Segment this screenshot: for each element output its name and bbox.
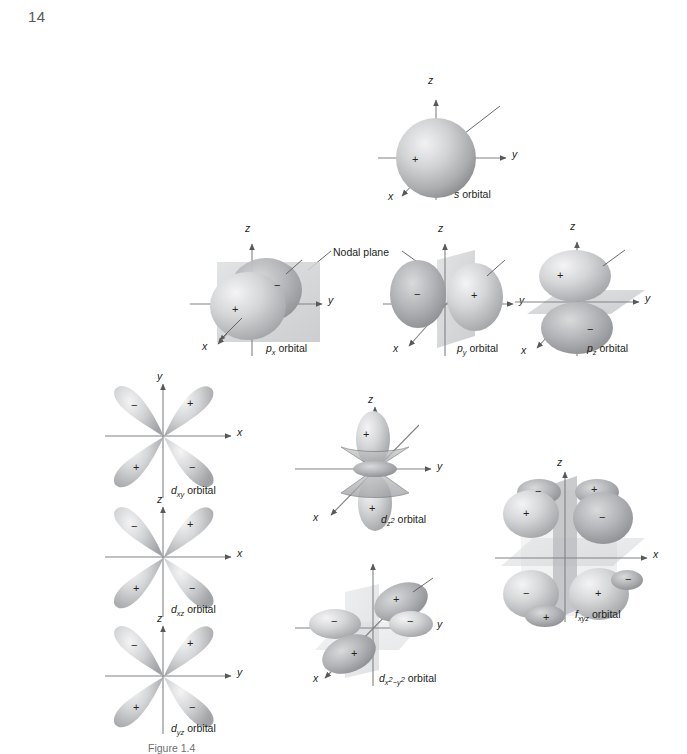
dxz-lobes bbox=[113, 502, 214, 613]
axis-label-x: x bbox=[237, 426, 242, 438]
phase-sign-plus-ll: + bbox=[133, 583, 139, 594]
phase-sign-minus: − bbox=[414, 289, 420, 300]
axis-label-y: y bbox=[237, 666, 242, 678]
dyz-lobes bbox=[113, 621, 214, 732]
phase-sign-plus-back: + bbox=[393, 594, 399, 605]
axis-label-x: x bbox=[393, 342, 398, 354]
orbital-caption-dxy: dxy orbital bbox=[171, 484, 216, 499]
orbital-superscript: 2 bbox=[391, 516, 395, 525]
orbital-panel-dxy: y x − + + − dxy orbital bbox=[105, 378, 275, 508]
s-orbital-sphere bbox=[396, 118, 476, 198]
orbital-subscript: z bbox=[593, 348, 597, 357]
phase-sign-minus-ul: − bbox=[131, 521, 137, 532]
axis-label-z: z bbox=[557, 456, 562, 468]
phase-sign-plus-ll: + bbox=[133, 702, 139, 713]
orbital-caption-py: py orbital bbox=[457, 342, 498, 357]
orbital-subscript: xz bbox=[177, 609, 184, 618]
phase-sign-plus-ur: + bbox=[187, 638, 193, 649]
axis-label-z: z bbox=[438, 222, 443, 234]
orbital-panel-dz2: z y x + + dz2 orbital bbox=[295, 403, 480, 531]
dxy-lobes bbox=[113, 381, 214, 492]
orbital-panel-pz: z y x + − pz orbital bbox=[515, 232, 685, 364]
phase-sign-minus-back-ul: − bbox=[535, 486, 541, 497]
orbital-symbol: d bbox=[379, 672, 385, 684]
phase-sign-plus-back-ur: + bbox=[591, 484, 597, 495]
axis-label-z: z bbox=[570, 220, 575, 232]
axis-label-x: x bbox=[313, 672, 318, 684]
axis-label-x: x bbox=[388, 190, 393, 202]
phase-sign-minus-ul: − bbox=[131, 640, 137, 651]
orbital-caption-s: s orbital bbox=[454, 188, 491, 200]
axis-label-x: x bbox=[653, 548, 658, 560]
dxy-lobe-minus-ul bbox=[113, 381, 164, 442]
orbital-subscript: xyz bbox=[578, 614, 589, 623]
orbital-subscript: xy bbox=[177, 490, 184, 499]
axis-label-y: y bbox=[157, 370, 162, 382]
dxy-lobe-plus-ur bbox=[164, 381, 215, 442]
pz-lobe-plus bbox=[539, 250, 611, 302]
axis-label-x: x bbox=[237, 547, 242, 559]
axis-label-y: y bbox=[512, 148, 517, 160]
orbital-subscript: yz bbox=[177, 728, 184, 737]
phase-sign-plus: + bbox=[232, 304, 238, 315]
phase-sign-plus: + bbox=[412, 154, 418, 165]
axis-label-x: x bbox=[521, 344, 526, 356]
figure-caption: Figure 1.4 bbox=[148, 742, 195, 754]
phase-sign-plus-back-ll: + bbox=[543, 612, 549, 623]
phase-sign-plus-ll: + bbox=[133, 462, 139, 473]
orbital-panel-dx2y2: y x + − − + dx2−y2 orbital bbox=[295, 558, 480, 693]
orbital-caption-dxz: dxz orbital bbox=[171, 603, 216, 618]
phase-sign-minus-lr: − bbox=[189, 462, 195, 473]
phase-sign-minus-ul: − bbox=[131, 400, 137, 411]
fxyz-lobe-plus-front-ul bbox=[503, 490, 559, 538]
orbital-caption-dyz: dyz orbital bbox=[171, 722, 216, 737]
phase-sign-minus: − bbox=[274, 280, 280, 291]
phase-sign-minus-lr: − bbox=[189, 583, 195, 594]
orbital-panel-dyz: z y − + + − dyz orbital bbox=[105, 620, 275, 742]
orbital-panel-fxyz: z x − + + − − + + − fxyz orbital bbox=[495, 470, 687, 630]
phase-sign-plus-top: + bbox=[363, 429, 369, 440]
leader-line-py bbox=[487, 260, 505, 276]
phase-sign-minus: − bbox=[587, 324, 593, 335]
orbital-caption-pz: pz orbital bbox=[587, 342, 628, 357]
phase-sign-minus-back-lr: − bbox=[625, 574, 631, 585]
phase-sign-plus-front-lr: + bbox=[595, 588, 601, 599]
phase-sign-plus-front: + bbox=[351, 648, 357, 659]
axis-label-x: x bbox=[313, 511, 318, 523]
axis-label-y: y bbox=[437, 460, 442, 472]
dz2-torus bbox=[353, 461, 397, 477]
axis-label-z: z bbox=[245, 222, 250, 234]
phase-sign-minus-front-ur: − bbox=[599, 512, 605, 523]
orbital-caption-dz2: dz2 orbital bbox=[381, 513, 426, 528]
orbital-panel-px: z y x − + px orbital bbox=[190, 232, 370, 364]
phase-sign-plus-front-ul: + bbox=[523, 508, 529, 519]
axis-label-x: x bbox=[202, 340, 207, 352]
phase-sign-plus-ur: + bbox=[187, 519, 193, 530]
orbital-panel-s: z y x + s orbital bbox=[378, 78, 558, 208]
phase-sign-plus: + bbox=[557, 270, 563, 281]
axis-label-y: y bbox=[328, 294, 333, 306]
dyz-lobe-plus-ur bbox=[164, 621, 215, 682]
phase-sign-plus: + bbox=[471, 290, 477, 301]
orbital-symbol: s bbox=[454, 188, 459, 200]
orbital-subscript: x2−y2 bbox=[385, 678, 405, 687]
orbital-subscript: z2 bbox=[387, 519, 395, 528]
orbital-caption-fxyz: fxyz orbital bbox=[575, 608, 621, 623]
phase-sign-plus-ur: + bbox=[187, 398, 193, 409]
phase-sign-plus-bottom: + bbox=[369, 503, 375, 514]
phase-sign-minus-left: − bbox=[331, 616, 337, 627]
axis-label-z: z bbox=[157, 612, 162, 624]
dyz-lobe-minus-ul bbox=[113, 621, 164, 682]
phase-sign-minus-lr: − bbox=[189, 702, 195, 713]
dxz-lobe-minus-ul bbox=[113, 502, 164, 563]
axis-label-y: y bbox=[437, 618, 442, 630]
orbital-panel-dxz: z x − + + − dxz orbital bbox=[105, 503, 275, 625]
leader-line-pz bbox=[603, 250, 625, 266]
orbital-subscript: y bbox=[463, 348, 467, 357]
page-number: 14 bbox=[28, 8, 46, 25]
axis-label-z: z bbox=[428, 74, 433, 86]
orbital-subscript: x bbox=[272, 348, 276, 357]
orbital-caption-px: px orbital bbox=[266, 342, 307, 357]
dxz-lobe-plus-ur bbox=[164, 502, 215, 563]
